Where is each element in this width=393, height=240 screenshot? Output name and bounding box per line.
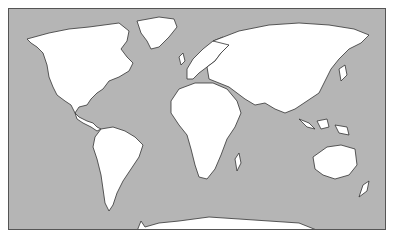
world-map: [8, 8, 386, 230]
map-canvas: [9, 9, 386, 230]
